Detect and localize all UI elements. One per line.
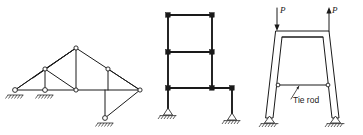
truss-diagonal-d xyxy=(33,48,76,78)
frame-rigid-joint xyxy=(210,86,215,91)
truss-prop-inclined xyxy=(105,90,140,118)
load-arrow-right xyxy=(326,7,331,31)
load-label-right: P xyxy=(331,5,338,15)
truss-diagonal-b xyxy=(45,69,76,90)
truss-joint xyxy=(74,46,78,50)
frame-rigid-joint xyxy=(166,86,171,91)
truss-joint xyxy=(138,88,142,92)
frame-rigid-joint xyxy=(210,50,215,55)
truss-diagonal-c xyxy=(15,69,45,90)
frame-rigid-joint xyxy=(166,50,171,55)
frame-rigid-joint xyxy=(210,13,215,18)
tie-rod-joint-left xyxy=(276,83,280,87)
panel-portal-frame-tie-rod: Tie rod P P xyxy=(250,0,363,135)
support-roller-mid xyxy=(36,88,54,99)
load-arrow-left xyxy=(274,8,279,31)
tie-rod-label: Tie rod xyxy=(293,95,319,105)
frame-rigid-joint xyxy=(230,86,235,91)
support-roller-prop xyxy=(96,116,114,127)
truss-joint xyxy=(74,88,78,92)
support-pin-left xyxy=(158,108,176,119)
frame-rigid-joint xyxy=(166,13,171,18)
panel-roof-truss xyxy=(0,0,145,135)
tie-rod-joint-right xyxy=(326,83,330,87)
structural-diagrams-figure: Tie rod P P xyxy=(0,0,363,135)
panel-rigid-frame xyxy=(150,0,260,135)
truss-joint xyxy=(106,67,110,71)
support-pin-right xyxy=(222,113,240,124)
support-pin-right xyxy=(325,116,344,127)
load-label-left: P xyxy=(279,5,286,15)
support-pin-left xyxy=(259,116,278,127)
truss-diagonal-e xyxy=(108,69,140,90)
support-roller-left xyxy=(6,88,24,99)
truss-joint xyxy=(43,67,47,71)
